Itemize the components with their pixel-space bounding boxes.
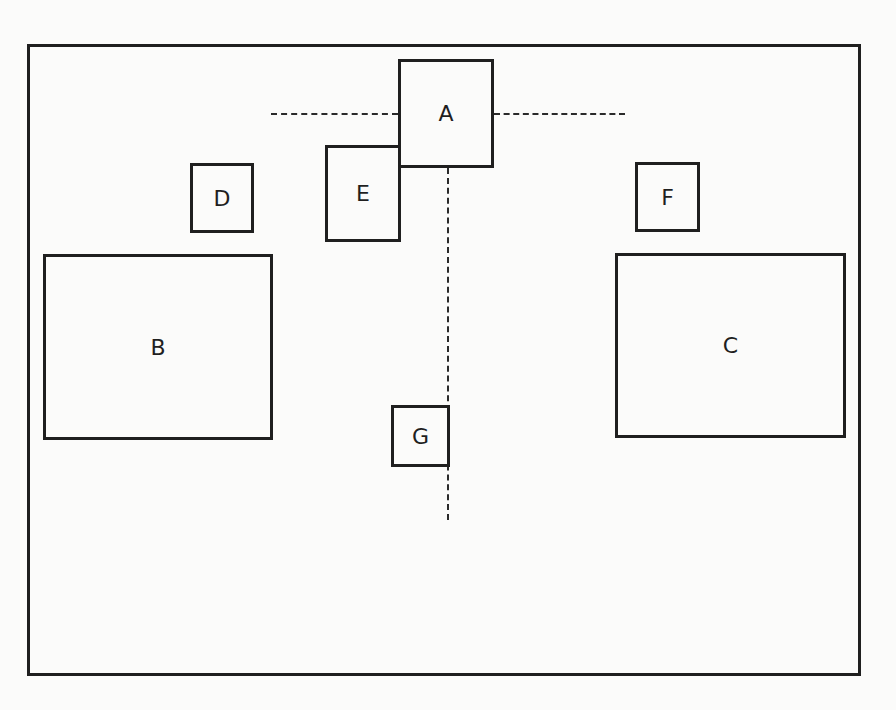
box-b-label: B xyxy=(150,335,165,360)
box-a-label: A xyxy=(438,101,453,126)
box-b: B xyxy=(43,254,273,440)
dashed-axis-horizontal-right xyxy=(494,113,625,115)
box-g: G xyxy=(391,405,450,467)
box-a: A xyxy=(398,59,494,168)
box-g-label: G xyxy=(412,424,429,449)
dashed-axis-vertical xyxy=(447,168,449,520)
box-c: C xyxy=(615,253,846,438)
box-c-label: C xyxy=(723,333,738,358)
box-e-label: E xyxy=(356,181,370,206)
box-d-label: D xyxy=(214,186,231,211)
box-f-label: F xyxy=(661,185,674,210)
box-f: F xyxy=(635,162,700,232)
box-e: E xyxy=(325,145,401,242)
dashed-axis-horizontal-left xyxy=(271,113,398,115)
box-d: D xyxy=(190,163,254,233)
